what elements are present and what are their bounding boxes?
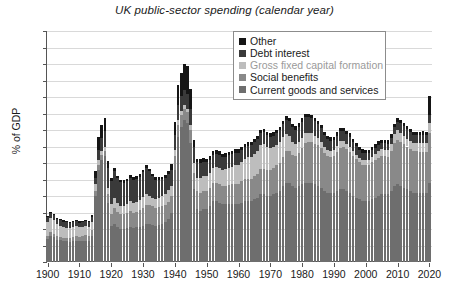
x-tick-mark (334, 263, 335, 267)
x-tick-label: 1950 (195, 268, 218, 280)
x-tick-label: 1960 (227, 268, 250, 280)
bar-segment (352, 139, 355, 142)
bar-segment (148, 169, 151, 172)
bar-segment (113, 168, 116, 171)
bar-segment (53, 214, 56, 215)
x-tick-label: 1990 (322, 268, 345, 280)
bar-segment (288, 118, 291, 121)
x-tick-mark (270, 263, 271, 267)
bar-segment (189, 109, 192, 125)
bar-segment (104, 131, 107, 148)
legend-swatch-icon (239, 38, 246, 45)
legend-item[interactable]: Debt interest (239, 47, 381, 59)
bar-segment (349, 133, 352, 136)
x-tick-mark (175, 263, 176, 267)
x-tick-label: 1970 (259, 268, 282, 280)
x-tick-label: 1940 (163, 268, 186, 280)
x-tick-label: 2020 (418, 268, 441, 280)
bar-segment (104, 147, 107, 151)
legend-label: Other (250, 36, 276, 47)
bar-segment (428, 123, 431, 133)
x-tick-label: 1930 (131, 268, 154, 280)
bar-segment (104, 151, 107, 156)
x-tick-label: 1920 (100, 268, 123, 280)
legend-swatch-icon (239, 74, 246, 81)
bar-segment (193, 140, 196, 147)
x-tick-label: 2000 (354, 268, 377, 280)
x-tick-mark (302, 263, 303, 267)
y-axis-title: % of GDP (10, 91, 22, 171)
legend-item[interactable]: Social benefits (239, 72, 381, 84)
x-tick-mark (429, 263, 430, 267)
x-tick-mark (366, 263, 367, 267)
legend-swatch-icon (239, 86, 246, 93)
bar-segment (151, 174, 154, 177)
bar-segment (428, 115, 431, 123)
x-tick-mark (143, 263, 144, 267)
legend-label: Gross fixed capital formation (250, 60, 383, 71)
legend-label: Social benefits (250, 72, 318, 83)
bar-segment (104, 118, 107, 131)
bar-segment (428, 133, 431, 183)
x-tick-label: 1900 (36, 268, 59, 280)
legend-label: Current goods and services (250, 85, 378, 96)
x-tick-mark (239, 263, 240, 267)
x-tick-mark (207, 263, 208, 267)
x-tick-label: 1910 (68, 268, 91, 280)
x-tick-label: 2010 (386, 268, 409, 280)
bar-segment (323, 132, 326, 135)
bar-segment (428, 183, 431, 262)
bar-segment (189, 89, 192, 109)
bar-segment (116, 176, 119, 179)
x-tick-mark (48, 263, 49, 267)
legend-label: Debt interest (250, 48, 310, 59)
bar-segment (145, 165, 148, 168)
x-tick-mark (398, 263, 399, 267)
x-tick-mark (79, 263, 80, 267)
legend-item[interactable]: Other (239, 35, 381, 47)
bar-segment (317, 121, 320, 124)
bar-segment (428, 96, 431, 116)
bar-segment (107, 161, 110, 168)
bar-segment (320, 125, 323, 128)
bar-2020 (428, 96, 431, 262)
x-tick-label: 1980 (290, 268, 313, 280)
legend-item[interactable]: Current goods and services (239, 84, 381, 96)
legend-swatch-icon (239, 50, 246, 57)
chart-container: UK public-sector spending (calendar year… (0, 0, 449, 290)
x-axis: 1900191019201930194019501960197019801990… (46, 263, 431, 287)
chart-legend: OtherDebt interestGross fixed capital fo… (233, 31, 386, 100)
x-tick-mark (111, 263, 112, 267)
bar-segment (189, 125, 192, 130)
legend-item[interactable]: Gross fixed capital formation (239, 59, 381, 71)
legend-swatch-icon (239, 62, 246, 69)
